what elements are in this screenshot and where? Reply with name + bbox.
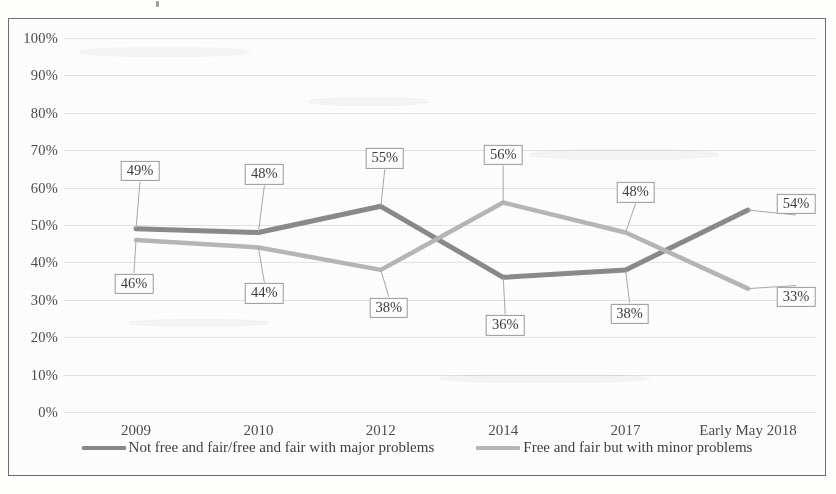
data-label: 46% xyxy=(115,274,154,294)
data-label: 54% xyxy=(777,194,816,214)
y-axis-tick-label: 0% xyxy=(38,404,58,421)
series-line xyxy=(136,206,748,277)
data-label-leader-line xyxy=(381,270,389,297)
data-label: 38% xyxy=(610,304,649,324)
data-label-leader-line xyxy=(626,203,636,232)
x-axis-tick-label: 2014 xyxy=(488,422,518,439)
data-label: 38% xyxy=(370,298,409,318)
chart-legend: Not free and fair/free and fair with maj… xyxy=(9,439,825,456)
data-label: 56% xyxy=(484,144,523,164)
plot-area: 100%90%80%70%60%50%40%30%20%10%0% 200920… xyxy=(64,38,816,412)
y-axis-tick-label: 70% xyxy=(31,142,58,159)
series-line xyxy=(136,203,748,289)
legend-label: Free and fair but with minor problems xyxy=(523,439,752,456)
legend-item[interactable]: Free and fair but with minor problems xyxy=(476,439,752,456)
y-axis-tick-label: 60% xyxy=(31,179,58,196)
data-label-leader-line xyxy=(258,185,264,232)
y-axis-tick-label: 50% xyxy=(31,217,58,234)
scan-artifact-speck xyxy=(156,1,159,7)
series-lines xyxy=(64,38,816,412)
data-label-leader-line xyxy=(381,169,385,206)
x-axis-tick-label: 2010 xyxy=(243,422,273,439)
x-axis-tick-label: Early May 2018 xyxy=(699,422,796,439)
y-axis-tick-label: 30% xyxy=(31,291,58,308)
chart-frame: 100%90%80%70%60%50%40%30%20%10%0% 200920… xyxy=(8,18,826,476)
x-axis-tick-label: 2017 xyxy=(611,422,641,439)
legend-swatch-icon xyxy=(82,446,126,450)
x-axis-tick-label: 2012 xyxy=(366,422,396,439)
y-axis-tick-label: 20% xyxy=(31,329,58,346)
x-axis-tick-label: 2009 xyxy=(121,422,151,439)
data-label-leader-line xyxy=(136,182,140,229)
y-axis-tick-label: 10% xyxy=(31,366,58,383)
legend-swatch-icon xyxy=(476,446,520,450)
data-label: 48% xyxy=(245,164,284,184)
data-label: 33% xyxy=(777,286,816,306)
data-label-leader-line xyxy=(626,270,630,303)
legend-label: Not free and fair/free and fair with maj… xyxy=(129,439,435,456)
legend-item[interactable]: Not free and fair/free and fair with maj… xyxy=(82,439,435,456)
data-label-leader-line xyxy=(258,247,264,282)
y-axis-tick-label: 90% xyxy=(31,67,58,84)
data-label: 49% xyxy=(121,161,160,181)
data-label: 44% xyxy=(245,283,284,303)
y-axis-tick-label: 40% xyxy=(31,254,58,271)
data-label: 55% xyxy=(366,148,405,168)
data-label-leader-line xyxy=(134,240,136,273)
y-axis-tick-label: 80% xyxy=(31,104,58,121)
data-label-leader-line xyxy=(503,277,505,314)
y-axis-tick-label: 100% xyxy=(23,30,58,47)
data-label: 36% xyxy=(486,315,525,335)
gridline xyxy=(64,412,816,413)
data-label: 48% xyxy=(616,182,655,202)
